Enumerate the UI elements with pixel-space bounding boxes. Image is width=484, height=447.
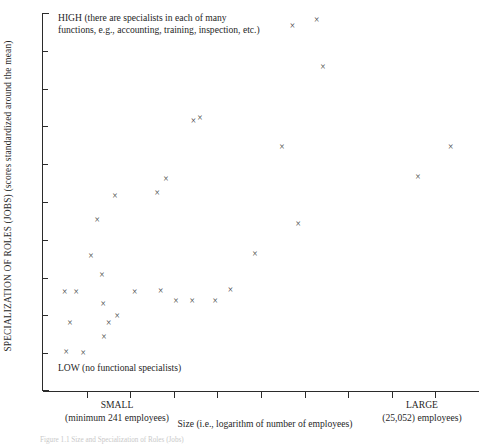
data-point-marker: ×	[446, 143, 455, 152]
y-axis-title: SPECIALIZATION OF ROLES (JOBS) (scores s…	[0, 0, 16, 392]
x-axis-tick	[174, 391, 175, 398]
data-point-marker: ×	[189, 117, 198, 126]
annotation-low: LOW (no functional specialists)	[58, 362, 181, 374]
data-point-marker: ×	[113, 312, 122, 321]
data-point-marker: ×	[110, 192, 119, 201]
data-point-marker: ×	[60, 288, 69, 297]
data-point-marker: ×	[153, 189, 162, 198]
x-axis-tick	[305, 391, 306, 398]
plot-area: ×××××××××××××××××××××××××××××××	[43, 13, 479, 391]
annotation-high-line2: functions, e.g., accounting, training, i…	[58, 24, 260, 36]
data-point-marker: ×	[414, 173, 423, 182]
data-point-marker: ×	[79, 349, 88, 358]
figure-caption: Figure 1.1 Size and Specialization of Ro…	[40, 436, 444, 445]
x-axis-tick	[261, 391, 262, 398]
data-point-marker: ×	[62, 348, 71, 357]
data-point-marker: ×	[87, 252, 96, 261]
data-point-marker: ×	[211, 297, 220, 306]
data-point-marker: ×	[172, 297, 181, 306]
x-axis-tick	[217, 391, 218, 398]
data-point-marker: ×	[277, 143, 286, 152]
data-point-marker: ×	[312, 16, 321, 25]
data-point-marker: ×	[72, 288, 81, 297]
data-point-marker: ×	[250, 250, 259, 259]
scatter-plot-figure: SPECIALIZATION OF ROLES (JOBS) (scores s…	[0, 0, 484, 447]
data-point-marker: ×	[318, 63, 327, 72]
x-axis-tick	[87, 391, 88, 398]
data-point-marker: ×	[188, 297, 197, 306]
x-axis-tick	[392, 391, 393, 398]
data-point-marker: ×	[99, 300, 108, 309]
data-point-marker: ×	[162, 175, 171, 184]
x-axis-label-large-main: LARGE	[406, 399, 438, 410]
data-point-marker: ×	[97, 271, 106, 280]
data-point-marker: ×	[294, 220, 303, 229]
data-point-marker: ×	[93, 216, 102, 225]
data-point-marker: ×	[156, 287, 165, 296]
data-point-marker: ×	[226, 286, 235, 295]
annotation-high: HIGH (there are specialists in each of m…	[58, 12, 260, 37]
x-axis-tick	[348, 391, 349, 398]
data-point-marker: ×	[288, 22, 297, 31]
x-axis-tick	[435, 391, 436, 398]
x-axis-label-small-main: SMALL	[101, 399, 134, 410]
x-axis-title: Size (i.e., logarithm of number of emplo…	[145, 418, 385, 429]
data-point-marker: ×	[66, 319, 75, 328]
y-axis-title-text: SPECIALIZATION OF ROLES (JOBS) (scores s…	[3, 40, 13, 351]
annotation-high-line1: HIGH (there are specialists in each of m…	[58, 12, 260, 24]
x-axis-tick	[130, 391, 131, 398]
data-point-marker: ×	[100, 333, 109, 342]
data-point-marker: ×	[130, 288, 139, 297]
